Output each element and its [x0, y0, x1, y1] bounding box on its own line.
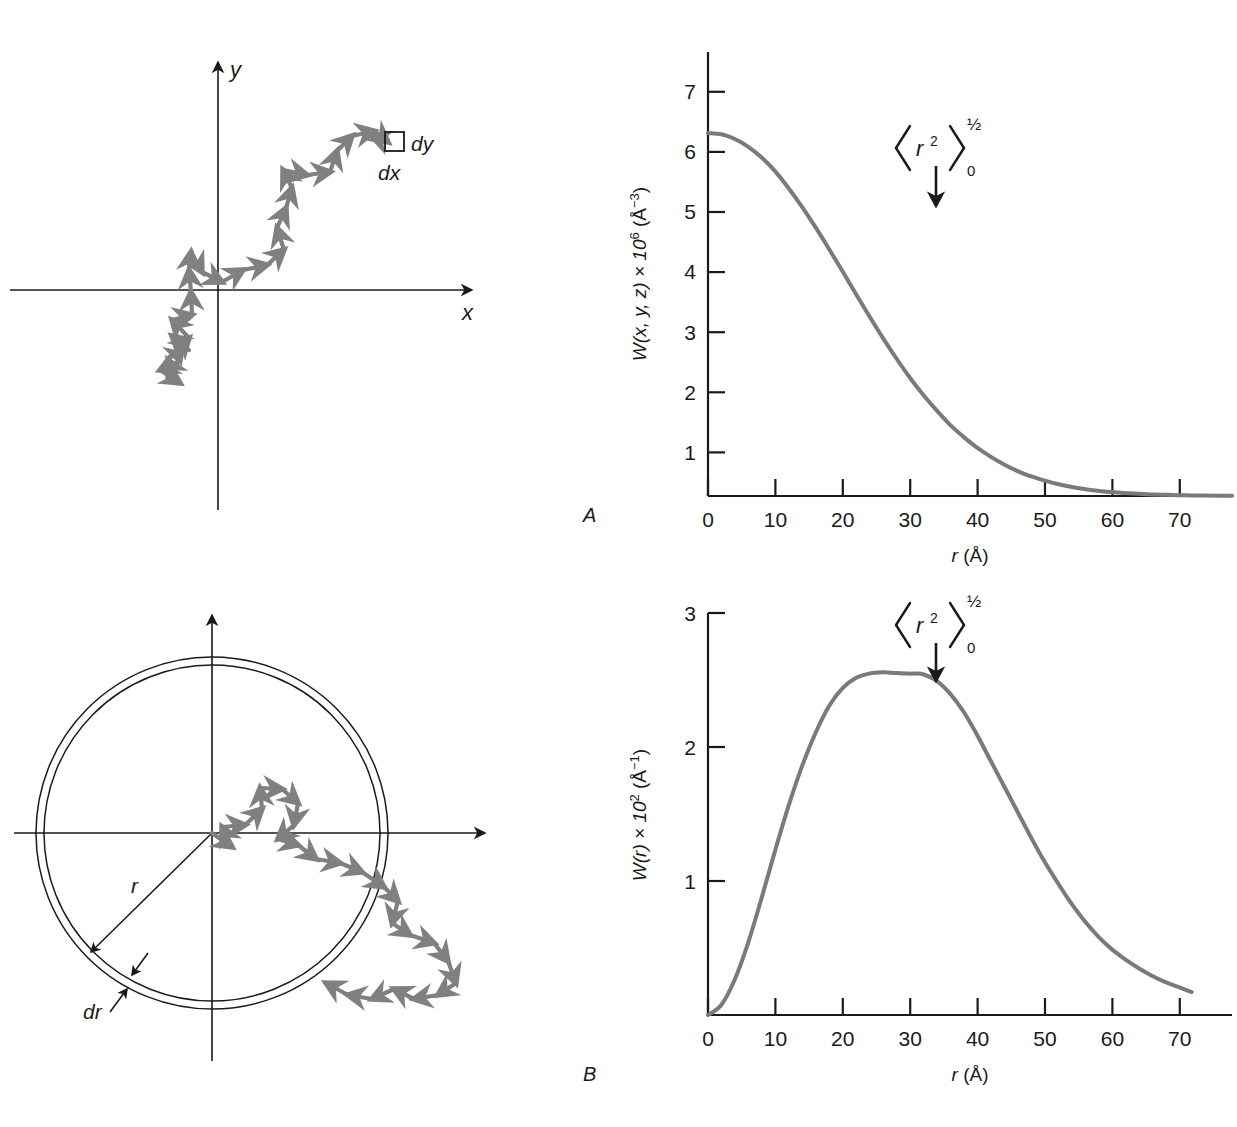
rms-base: r — [916, 613, 925, 638]
svg-text:4: 4 — [684, 260, 696, 283]
svg-text:70: 70 — [1168, 508, 1191, 531]
panel-letter-b: B — [583, 1063, 596, 1086]
svg-text:10: 10 — [764, 508, 787, 531]
chart-a-rms-annotation: r 2 ½ 0 — [896, 115, 981, 206]
chart-b-rms-annotation: r 2 ½ 0 — [896, 592, 981, 681]
svg-text:10: 10 — [764, 1027, 787, 1050]
svg-text:W(x, y, z) × 106 (Å−3): W(x, y, z) × 106 (Å−3) — [627, 187, 650, 361]
cartesian-random-walk-svg: y x dy dx — [0, 20, 520, 530]
chart-b-ylabel: W(r) × 102 (Å−1) — [627, 749, 650, 881]
rms-subscript: 0 — [967, 162, 975, 179]
svg-text:20: 20 — [831, 508, 854, 531]
chart-b-x-ticks — [708, 998, 1180, 1015]
chart-a-curve — [708, 133, 1232, 496]
svg-text:5: 5 — [684, 200, 696, 223]
radial-shell-svg: r dr — [10, 575, 540, 1085]
circle-diagram-panel: r dr — [10, 575, 540, 1085]
svg-text:W(r) × 102 (Å−1): W(r) × 102 (Å−1) — [627, 749, 650, 881]
svg-text:2: 2 — [684, 381, 696, 404]
rms-superscript: ½ — [967, 115, 981, 134]
dx-label: dx — [378, 161, 402, 184]
chart-b-x-ticklabels: 0 10 20 30 40 50 60 70 — [702, 1027, 1191, 1050]
chart-a-y-ticks — [708, 92, 725, 453]
chart-b-y-ticklabels: 3 2 1 — [684, 602, 696, 893]
svg-text:3: 3 — [684, 321, 696, 344]
svg-text:1: 1 — [684, 870, 696, 893]
svg-text:3: 3 — [684, 602, 696, 625]
svg-text:60: 60 — [1101, 1027, 1124, 1050]
dr-arrow-lower — [110, 989, 127, 1012]
panel-letter-a: A — [583, 504, 596, 527]
svg-text:50: 50 — [1033, 508, 1056, 531]
svg-text:70: 70 — [1168, 1027, 1191, 1050]
dr-label: dr — [83, 1000, 103, 1023]
svg-text:6: 6 — [684, 140, 696, 163]
chart-b-panel: 3 2 1 0 10 20 30 40 50 60 70 — [620, 585, 1237, 1105]
svg-text:30: 30 — [899, 1027, 922, 1050]
rms-base: r — [916, 136, 925, 161]
chart-a-y-ticklabels: 7 6 5 4 3 2 1 — [684, 80, 696, 464]
svg-text:2: 2 — [684, 736, 696, 759]
dy-label: dy — [411, 132, 435, 155]
rms-subscript: 0 — [967, 639, 975, 656]
radius-label: r — [131, 874, 139, 897]
rms-superscript: ½ — [967, 592, 981, 611]
svg-text:7: 7 — [684, 80, 696, 103]
svg-text:40: 40 — [966, 1027, 989, 1050]
rms-base-exponent: 2 — [930, 610, 938, 626]
radius-arrow — [91, 833, 212, 952]
svg-text:1: 1 — [684, 441, 696, 464]
svg-text:20: 20 — [831, 1027, 854, 1050]
random-walk-path — [212, 788, 456, 999]
chart-b-curve — [708, 672, 1192, 1015]
chart-b-xlabel: r (Å) — [952, 1064, 989, 1085]
chart-b-svg: 3 2 1 0 10 20 30 40 50 60 70 — [620, 585, 1237, 1105]
rms-base-exponent: 2 — [930, 133, 938, 149]
chart-a-svg: 7 6 5 4 3 2 1 0 10 20 30 40 50 60 — [620, 30, 1237, 550]
svg-text:0: 0 — [702, 508, 714, 531]
chart-b-y-ticks — [708, 613, 725, 881]
svg-text:0: 0 — [702, 1027, 714, 1050]
walk-diagram-panel: y x dy dx — [0, 20, 520, 530]
chart-a-x-ticklabels: 0 10 20 30 40 50 60 70 — [702, 508, 1191, 531]
svg-text:40: 40 — [966, 508, 989, 531]
svg-text:30: 30 — [899, 508, 922, 531]
random-walk-path — [160, 131, 388, 383]
svg-text:50: 50 — [1033, 1027, 1056, 1050]
dr-arrow-upper — [132, 953, 148, 975]
axis-label-y: y — [228, 57, 243, 82]
chart-a-panel: 7 6 5 4 3 2 1 0 10 20 30 40 50 60 — [620, 30, 1237, 550]
chart-a-xlabel: r (Å) — [952, 545, 989, 566]
chart-a-ylabel: W(x, y, z) × 106 (Å−3) — [627, 187, 650, 361]
svg-text:60: 60 — [1101, 508, 1124, 531]
axis-label-x: x — [461, 300, 474, 325]
